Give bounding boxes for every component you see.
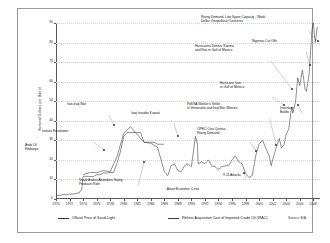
x-axis-tick-label: 1972 xyxy=(66,203,73,206)
x-axis-tick-mark xyxy=(300,199,301,201)
x-axis-tick-label: 2004 xyxy=(282,203,289,206)
y-axis-tick-label: 10 xyxy=(49,178,53,181)
x-axis-tick-label: 2000 xyxy=(255,203,262,206)
x-axis-tick-label: 1998 xyxy=(242,203,249,206)
y-axis-tick-label: 20 xyxy=(49,158,53,161)
legend-label: Refiner Acquisition Cost of Imported Cru… xyxy=(182,216,267,220)
legend-label: Official Price of Saudi Light xyxy=(72,216,115,220)
x-axis-tick-mark xyxy=(110,199,111,201)
x-axis-tick-mark xyxy=(164,199,165,201)
source-note: Source: EIA xyxy=(288,216,306,220)
x-axis-tick-label: 2002 xyxy=(269,203,276,206)
x-axis-tick-mark xyxy=(178,199,179,201)
x-axis-tick-label: 1992 xyxy=(201,203,208,206)
annotation-inventory-builds: Inventory Builds xyxy=(280,106,293,114)
x-axis-tick-label: 1970 xyxy=(52,203,59,206)
annotation-opec-cuts-quotas: OPEC Cuts Quotas, Rising Demand xyxy=(197,127,226,135)
annotation-iranian-revolution: Iranian Revolution xyxy=(42,129,68,133)
x-axis-tick-label: 1980 xyxy=(120,203,127,206)
y-axis-tick-label: 70 xyxy=(49,60,53,63)
x-axis-tick-mark xyxy=(232,199,233,201)
y-axis-tick-label: 80 xyxy=(49,41,53,44)
x-axis-tick-label: 1982 xyxy=(134,203,141,206)
y-axis-tick-label: 50 xyxy=(49,100,53,103)
x-axis-tick-mark xyxy=(246,199,247,201)
x-axis-tick-label: 1974 xyxy=(79,203,86,206)
x-axis-tick-mark xyxy=(124,199,125,201)
legend-swatch-icon xyxy=(58,218,69,219)
x-axis-tick-mark xyxy=(83,199,84,201)
annotation-hurricanes-dennis-katrina-rita: Hurricanes Dennis, Katrina and Rita in G… xyxy=(195,44,234,52)
x-axis-tick-label: 1986 xyxy=(161,203,168,206)
x-axis-tick-label: 1990 xyxy=(188,203,195,206)
y-axis-tick-label: 40 xyxy=(49,119,53,122)
legend-swatch-icon xyxy=(168,218,179,219)
x-axis-tick-mark xyxy=(151,199,152,201)
x-axis-tick-mark xyxy=(70,199,71,201)
annotation-rising-demand-weak-dollar: Rising Demand, Low Spare Capacity , Weak… xyxy=(201,15,265,23)
series-line-0 xyxy=(56,133,164,196)
x-axis-tick-label: 1978 xyxy=(106,203,113,206)
x-axis-tick-label: 1976 xyxy=(93,203,100,206)
x-axis-tick-mark xyxy=(313,199,314,201)
annotation-nigerian-cut-offs: Nigerian Cut Offs xyxy=(252,39,277,43)
x-axis-tick-label: 1994 xyxy=(215,203,222,206)
y-axis-tick-label: 60 xyxy=(49,80,53,83)
annotation-hurricane-ivan: Hurricane Ivan in Gulf of Mexico xyxy=(220,81,244,89)
x-axis-tick-mark xyxy=(205,199,206,201)
x-axis-tick-mark xyxy=(56,199,57,201)
x-axis-tick-label: 1988 xyxy=(174,203,181,206)
annotation-iran-iraq-war: Iran-Iraq War xyxy=(67,102,86,106)
x-axis-tick-mark xyxy=(218,199,219,201)
annotation-saudi-swing-producer: Saudi Arabia Abandons Swing Producer Rol… xyxy=(79,178,123,186)
annotation-asian-economic-crisis: Asian Economic Crisis xyxy=(167,187,199,191)
annotation-nine-eleven-attacks: 9-11 Attacks xyxy=(223,173,241,177)
y-axis-title: Nominal Dollars per Barrel xyxy=(38,87,42,131)
y-axis-tick-label: 0 xyxy=(51,197,53,200)
chart-legend: Official Price of Saudi Light Refiner Ac… xyxy=(56,214,320,226)
annotation-iraq-invades-kuwait: Iraq Invades Kuwait xyxy=(131,111,160,115)
x-axis-tick-label: 2008 xyxy=(310,203,317,206)
x-axis-tick-label: 1984 xyxy=(147,203,154,206)
x-axis-tick-mark xyxy=(273,199,274,201)
x-axis-tick-mark xyxy=(191,199,192,201)
annotation-pdvsa-strike-iraq-war: PdVSA Worker's Strike in Venezuela and I… xyxy=(187,102,237,110)
annotation-arab-oil-embargo: Arab Oil Embargo xyxy=(25,143,38,151)
y-axis-tick-label: 90 xyxy=(49,21,53,24)
figure-frame: Nominal Dollars per Barrel 0102030405060… xyxy=(17,8,313,233)
legend-item-refiner-acquisition-cost: Refiner Acquisition Cost of Imported Cru… xyxy=(168,216,267,220)
x-axis-tick-mark xyxy=(97,199,98,201)
x-axis-tick-label: 1996 xyxy=(228,203,235,206)
x-axis-tick-label: 2006 xyxy=(296,203,303,206)
y-axis-tick-label: 30 xyxy=(49,139,53,142)
x-axis-tick-mark xyxy=(259,199,260,201)
x-axis-tick-mark xyxy=(137,199,138,201)
legend-item-official-price-saudi-light: Official Price of Saudi Light xyxy=(58,216,115,220)
chart-page: Nominal Dollars per Barrel 0102030405060… xyxy=(0,0,330,243)
x-axis-tick-mark xyxy=(286,199,287,201)
